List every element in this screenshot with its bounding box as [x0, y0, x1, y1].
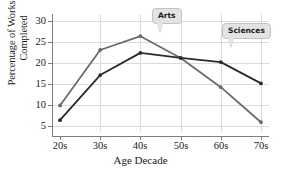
y-tick-label: 20 [24, 57, 46, 68]
x-tick-label: 50s [166, 140, 196, 151]
data-point-sciences-20s [58, 118, 62, 122]
x-axis-title: Age Decade [0, 154, 281, 166]
x-tick-label: 20s [45, 140, 75, 151]
data-point-sciences-60s [219, 60, 223, 64]
data-point-sciences-40s [139, 51, 143, 55]
data-point-arts-70s [259, 120, 263, 124]
x-tick-label: 40s [125, 140, 155, 151]
annotation-label-arts: Arts [158, 11, 176, 20]
callout-tail [157, 23, 163, 32]
y-tick-label: 5 [24, 120, 46, 131]
data-point-sciences-50s [179, 56, 183, 60]
line-chart: Percentage of Works Completed 5101520253… [0, 0, 281, 177]
y-axis-title-line-1: Percentage of Works [6, 0, 18, 103]
data-point-arts-30s [98, 48, 102, 52]
x-tick-label: 30s [85, 140, 115, 151]
y-tick-label: 25 [24, 36, 46, 47]
data-point-sciences-30s [98, 73, 102, 77]
y-tick-label: 30 [24, 15, 46, 26]
data-point-sciences-70s [259, 81, 263, 85]
callout-tail [228, 38, 234, 47]
series-line-arts [60, 36, 261, 122]
x-tick-label: 60s [206, 140, 236, 151]
data-point-arts-60s [219, 85, 223, 89]
annotation-callout-sciences: Sciences [222, 23, 271, 39]
annotation-label-sciences: Sciences [228, 26, 265, 35]
data-point-arts-20s [58, 104, 62, 108]
y-tick-label: 15 [24, 78, 46, 89]
y-tick-label: 10 [24, 99, 46, 110]
x-tick-label: 70s [246, 140, 276, 151]
annotation-callout-arts: Arts [152, 8, 182, 24]
data-point-arts-40s [139, 34, 143, 38]
